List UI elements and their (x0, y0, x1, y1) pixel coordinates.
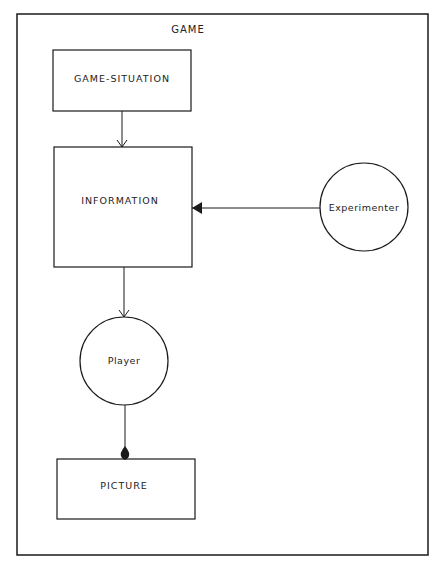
information-box (54, 147, 192, 267)
game-situation-label: GAME-SITUATION (74, 73, 170, 84)
game-diagram: GAME GAME-SITUATION INFORMATION Experime… (0, 0, 441, 570)
player-label: Player (108, 355, 141, 366)
filled-arrowhead-icon (192, 202, 202, 214)
information-label: INFORMATION (81, 195, 159, 206)
game-frame (17, 14, 428, 555)
game-frame-label: GAME (171, 24, 205, 35)
picture-label: PICTURE (100, 480, 148, 491)
experimenter-label: Experimenter (329, 202, 400, 213)
teardrop-arrowhead-icon (121, 446, 130, 460)
